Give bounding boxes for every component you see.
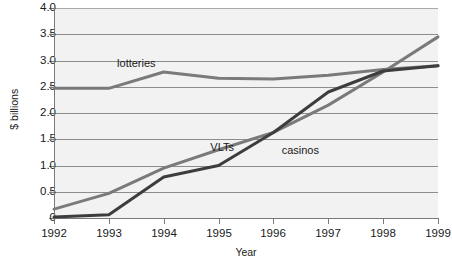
x-axis-title: Year <box>54 247 438 258</box>
series-line-VLTs <box>54 37 438 209</box>
series-label-lotteries: lotteries <box>117 58 156 69</box>
y-axis-title: $ billions <box>9 69 20 149</box>
series-line-lotteries <box>54 66 438 89</box>
series-label-casinos: casinos <box>282 145 319 156</box>
series-label-VLTs: VLTs <box>210 142 234 153</box>
line-chart: 00.51.01.52.02.53.03.54.0 19921993199419… <box>0 0 452 264</box>
series-layer <box>0 0 452 264</box>
